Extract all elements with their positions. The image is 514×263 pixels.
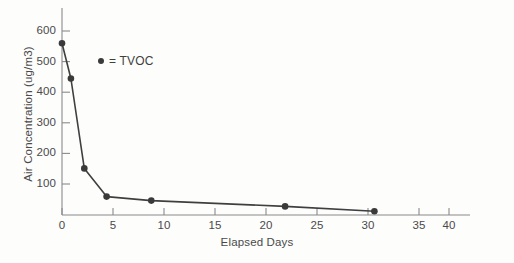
chart-legend: = TVOC [98,54,154,68]
x-tick-label-5: 5 [99,219,127,231]
data-point [282,203,289,210]
x-tick-label-10: 10 [150,219,178,231]
x-axis-ticks [62,208,449,215]
x-axis-title: Elapsed Days [0,236,514,248]
x-tick-label-25: 25 [303,219,331,231]
data-point [81,165,88,172]
chart-figure: 600 500 400 300 200 100 0 5 10 15 20 25 … [0,0,514,263]
data-point [59,40,66,47]
x-tick-label-30: 30 [354,219,382,231]
data-point [103,193,110,200]
x-tick-label-40: 40 [435,219,463,231]
tvoc-marker-dot-icon [98,58,104,64]
x-tick-label-15: 15 [201,219,229,231]
data-point [371,208,378,215]
legend-label-tvoc: = TVOC [109,54,154,68]
series-line-tvoc [62,43,374,211]
x-tick-label-0: 0 [48,219,76,231]
y-axis-ticks [62,31,70,184]
data-point [148,197,155,204]
y-axis-title: Air Concentration (ug/m3) [22,24,34,204]
x-tick-label-35: 35 [405,219,433,231]
data-point [68,75,75,82]
x-tick-label-20: 20 [252,219,280,231]
